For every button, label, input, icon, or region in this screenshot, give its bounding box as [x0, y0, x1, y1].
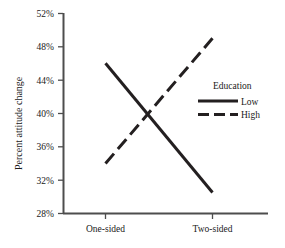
legend-label-low: Low	[241, 97, 259, 107]
y-tick-label-36: 36%	[37, 142, 55, 152]
y-tick-marks	[58, 14, 63, 214]
y-axis-title: Percent attitude change	[13, 76, 24, 170]
x-tick-label-two-sided: Two-sided	[193, 224, 233, 234]
y-tick-label-52: 52%	[37, 9, 55, 19]
series-line-low	[106, 63, 213, 192]
y-tick-label-48: 48%	[37, 42, 55, 52]
series-line-high	[106, 38, 213, 163]
y-tick-label-28: 28%	[37, 209, 55, 219]
y-tick-label-44: 44%	[37, 76, 55, 86]
y-tick-label-40: 40%	[37, 109, 55, 119]
line-chart: 52% 48% 44% 40% 36% 32% 28% Percent atti…	[0, 0, 285, 248]
legend-title: Education	[213, 81, 252, 91]
x-tick-label-one-sided: One-sided	[86, 224, 125, 234]
chart-container: 52% 48% 44% 40% 36% 32% 28% Percent atti…	[0, 0, 285, 248]
legend-label-high: High	[241, 110, 260, 120]
legend: Education Low High	[198, 81, 260, 120]
y-tick-label-32: 32%	[37, 176, 55, 186]
